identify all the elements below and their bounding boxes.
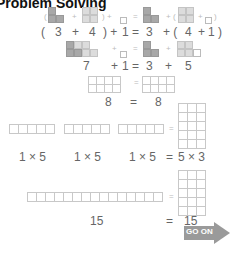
block-light bbox=[185, 41, 193, 49]
block-dark bbox=[151, 15, 159, 23]
block-light bbox=[90, 49, 98, 57]
block-dark bbox=[143, 41, 151, 49]
block-white bbox=[205, 17, 212, 24]
block-light bbox=[178, 15, 186, 23]
block-light bbox=[178, 7, 186, 15]
block-dark bbox=[143, 7, 151, 15]
strip-1x5-b bbox=[64, 124, 109, 133]
block-light bbox=[186, 7, 194, 15]
block-light bbox=[177, 49, 185, 57]
block-light bbox=[82, 41, 90, 49]
grid-5x3 bbox=[178, 103, 205, 148]
block-light bbox=[185, 49, 193, 57]
block-light bbox=[82, 49, 90, 57]
block-white bbox=[193, 49, 201, 57]
strip-1x5-a bbox=[9, 124, 54, 133]
block-dark bbox=[56, 15, 64, 23]
block-light bbox=[90, 15, 98, 23]
block-white bbox=[120, 17, 127, 24]
go-on-button[interactable]: GO ON bbox=[184, 222, 232, 244]
block-white bbox=[120, 51, 127, 58]
grid-5x3-b bbox=[178, 170, 205, 215]
block-light bbox=[90, 7, 98, 15]
block-light bbox=[82, 15, 90, 23]
block-light bbox=[186, 15, 194, 23]
block-light bbox=[82, 7, 90, 15]
block-dark bbox=[48, 15, 56, 23]
grid-4x2-right bbox=[142, 76, 174, 92]
block-dark bbox=[143, 49, 151, 57]
block-dark bbox=[66, 49, 74, 57]
strip-1x5-c bbox=[118, 124, 163, 133]
block-light bbox=[177, 41, 185, 49]
arrow-head-icon bbox=[214, 222, 230, 244]
block-dark bbox=[66, 41, 74, 49]
block-dark bbox=[143, 15, 151, 23]
block-light bbox=[74, 41, 82, 49]
strip-1x15 bbox=[27, 192, 162, 201]
grid-4x2-left bbox=[88, 76, 120, 92]
block-dark bbox=[151, 49, 159, 57]
block-dark bbox=[74, 49, 82, 57]
block-dark bbox=[48, 7, 56, 15]
